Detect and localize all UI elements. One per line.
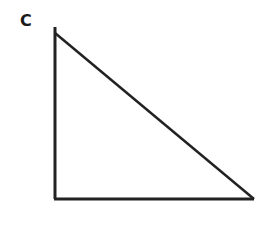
triangle-diagram bbox=[0, 0, 256, 231]
hypotenuse bbox=[55, 33, 254, 199]
